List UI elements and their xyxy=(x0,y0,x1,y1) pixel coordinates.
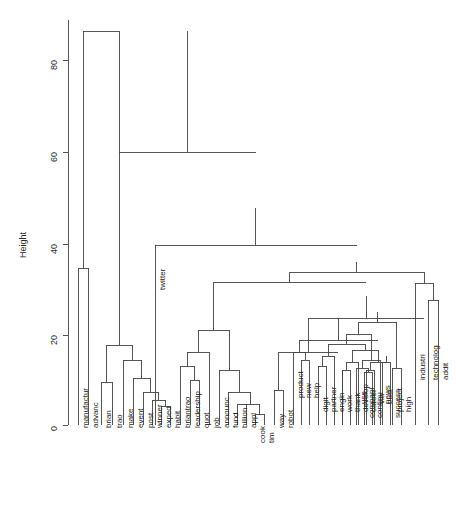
leaf-label: advanc xyxy=(91,402,100,428)
leaf-label: high xyxy=(404,397,413,412)
y-axis-label: Height xyxy=(18,232,28,258)
leaf-label: appl xyxy=(249,413,258,428)
leaf-label: job xyxy=(212,417,221,428)
merge-links xyxy=(78,31,438,414)
y-tick-label-80: 80 xyxy=(49,60,59,70)
leaf-label: robot xyxy=(286,410,295,428)
leaf-label: quot xyxy=(202,412,211,428)
leaf-label: addit xyxy=(441,363,450,380)
leaf-label: cook xyxy=(258,426,267,443)
y-tick-label-40: 40 xyxy=(49,244,59,254)
leaf-label: help xyxy=(312,383,321,398)
leaf-label: news xyxy=(383,385,392,404)
leaf-label: make xyxy=(126,408,135,428)
y-tick-label-20: 20 xyxy=(49,335,59,345)
leaf-label: project xyxy=(395,388,404,412)
leaf-label: fund xyxy=(231,412,240,428)
leaf-label: industri xyxy=(418,354,427,380)
dendrogram-canvas xyxy=(0,0,456,509)
leaf-label: leadership xyxy=(193,391,202,428)
leaf-label: exped xyxy=(164,406,173,428)
leaf-label: post xyxy=(146,413,155,428)
leaf-label: manufactur xyxy=(81,388,90,428)
leaf-label: brian xyxy=(104,410,113,428)
leaf-label: technolog xyxy=(431,345,440,380)
leaf-label: way xyxy=(277,414,286,428)
leaf-label-twitter: twitter xyxy=(158,269,167,290)
leaf-label: habit xyxy=(173,411,182,428)
leaf-label: trao xyxy=(115,414,124,428)
leaf-label: tim xyxy=(267,432,276,443)
y-tick-label-60: 60 xyxy=(49,152,59,162)
leaf-label: announc xyxy=(222,397,231,428)
leaf-label: winner xyxy=(155,404,164,428)
dendrogram-figure: Height 80 60 40 20 0 manufactur advanc b… xyxy=(0,0,456,509)
leaf-label: billion xyxy=(240,408,249,428)
leaf-label: event xyxy=(136,408,145,428)
y-tick-label-0: 0 xyxy=(49,426,59,431)
leaf-label: briantrao xyxy=(183,396,192,428)
